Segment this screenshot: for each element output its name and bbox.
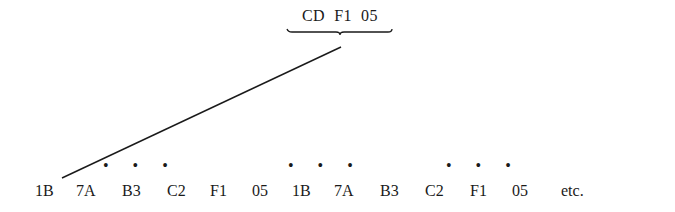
sequence-item: C2 xyxy=(167,182,186,200)
sequence-item: 7A xyxy=(76,182,96,200)
diagram-lines xyxy=(0,0,675,212)
sequence-item: C2 xyxy=(425,182,444,200)
sequence-item: B3 xyxy=(122,182,141,200)
sequence-item: 1B xyxy=(292,182,311,200)
ellipsis-dots: • • • xyxy=(446,157,521,175)
sequence-item: B3 xyxy=(380,182,399,200)
sequence-item: 7A xyxy=(334,182,354,200)
sequence-item: F1 xyxy=(470,182,487,200)
ellipsis-dots: • • • xyxy=(288,157,363,175)
sequence-item: 05 xyxy=(252,182,268,200)
sequence-item: 1B xyxy=(35,182,54,200)
sequence-item: 05 xyxy=(512,182,528,200)
brace-icon xyxy=(287,29,392,35)
ellipsis-dots: • • • xyxy=(103,157,178,175)
sequence-item: etc. xyxy=(561,182,584,200)
sequence-item: F1 xyxy=(210,182,227,200)
